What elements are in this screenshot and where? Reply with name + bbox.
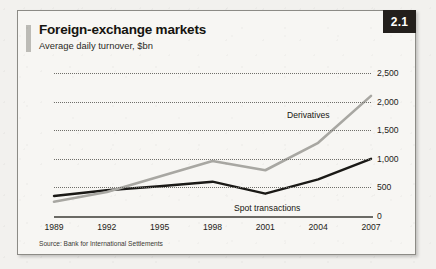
y-axis-tick-label: 1,500 [377,125,399,135]
y-axis-tick-label: 2,000 [377,97,399,107]
x-axis-tick-label: 2001 [256,222,275,232]
y-axis-tick-label: 2,500 [377,68,399,78]
x-axis-tick-label: 2004 [309,222,328,232]
gridline [54,102,371,103]
series-label-spot-transactions: Spot transactions [234,203,300,213]
series-label-derivatives: Derivatives [287,110,330,120]
x-axis-tick-label: 1995 [150,222,169,232]
y-axis-tick-label: 500 [377,182,391,192]
x-axis-tick-label: 1998 [203,222,222,232]
y-axis-tick-label: 0 [377,211,382,221]
x-axis-tick-label: 2007 [361,222,380,232]
x-axis-tick-label: 1992 [97,222,116,232]
source-note: Source: Bank for International Settlemen… [39,240,163,247]
gridline [54,73,371,74]
series-svg [54,73,371,216]
figure-number-badge: 2.1 [383,10,416,33]
gridline [54,159,371,160]
gridline [54,130,371,131]
chart-figure: Foreign-exchange markets Average daily t… [17,10,416,255]
y-axis-tick-label: 1,000 [377,154,399,164]
gridline [54,187,371,188]
series-line-spot-transactions [54,159,371,196]
x-axis-tick-label: 1989 [44,222,63,232]
x-axis-line [54,216,373,218]
title-accent-bar [26,25,31,52]
page-title: Foreign-exchange markets [39,22,206,37]
plot-area [54,73,371,216]
chart-subtitle: Average daily turnover, $bn [39,40,153,51]
